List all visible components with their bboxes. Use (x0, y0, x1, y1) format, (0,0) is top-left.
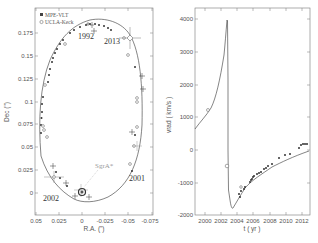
sgra-marker: SgrA* (79, 162, 114, 196)
velocity-model-curve (195, 20, 309, 208)
dec-tick: 0.075 (18, 121, 34, 127)
ra-axis-tick-labels: 0.05 0.025 0 -0.025 -0.05 -0.075 (30, 218, 159, 224)
time-tick: 2004 (230, 218, 244, 224)
velocity-plot: 4000 3000 2000 1000 0 -1000 -2000 vrad (… (165, 8, 310, 233)
vrad-axis-label: vrad ( km/s ) (165, 97, 173, 133)
orbit-plot: 0 0.025 0.05 0.075 0.1 0.125 0.15 0.175 … (3, 8, 159, 233)
time-axis-tick-labels: 2000 2002 2004 2006 2008 2010 2012 (198, 218, 309, 224)
velocity-plot-frame (195, 8, 310, 215)
dec-tick: 0.025 (18, 167, 34, 173)
point-2013 (119, 27, 141, 49)
vrad-tick: 4000 (180, 16, 194, 22)
dec-tick: 0.15 (21, 53, 33, 59)
sgra-pointer (84, 170, 98, 187)
ra-tick: 0 (80, 218, 84, 224)
sgra-dot (81, 191, 84, 194)
dec-axis-tick-labels: 0 0.025 0.05 0.075 0.1 0.125 0.15 0.175 (18, 30, 34, 196)
sgra-label: SgrA* (95, 162, 114, 170)
ra-tick: -0.025 (96, 218, 114, 224)
label-2001: 2001 (129, 174, 145, 183)
ra-tick: -0.075 (141, 218, 159, 224)
vrad-tick: 1000 (180, 114, 194, 120)
ra-axis-label: R.A. (") (83, 225, 104, 233)
label-1992: 1992 (78, 32, 94, 41)
ucla-keck-points (42, 37, 139, 179)
ra-tick: 0.025 (51, 218, 67, 224)
dec-tick: 0 (30, 190, 34, 196)
orbit-plot-frame (35, 8, 153, 215)
legend: MPE-VLT UCLA-Keck (40, 12, 74, 26)
dec-tick: 0.175 (18, 30, 34, 36)
time-tick: 2006 (246, 218, 260, 224)
time-tick: 2008 (263, 218, 277, 224)
legend-open-marker (40, 20, 43, 23)
ra-tick: 0.05 (30, 218, 42, 224)
orbit-curve (40, 19, 142, 202)
time-tick: 2002 (214, 218, 228, 224)
vrad-tick: 0 (190, 147, 194, 153)
vrad-axis-ticks (195, 19, 310, 183)
dec-tick: 0.05 (21, 144, 33, 150)
vrad-tick: -1000 (178, 180, 194, 186)
vrad-tick: 2000 (180, 82, 194, 88)
velocity-open-points (207, 109, 243, 189)
dec-axis-ticks (35, 33, 153, 193)
label-2002: 2002 (43, 194, 59, 203)
ra-axis-ticks (36, 8, 152, 215)
dec-axis-label: Dec (") (3, 102, 11, 122)
vrad-tick: 3000 (180, 49, 194, 55)
vrad-axis-tick-labels: 4000 3000 2000 1000 0 -1000 -2000 (178, 16, 194, 218)
time-axis-label: t ( yr ) (244, 225, 261, 233)
ra-tick: -0.05 (121, 218, 135, 224)
mpe-vlt-points (40, 23, 136, 187)
dec-tick: 0.125 (18, 76, 34, 82)
legend-mpe-vlt: MPE-VLT (45, 12, 69, 18)
figure: 0 0.025 0.05 0.075 0.1 0.125 0.15 0.175 … (0, 0, 318, 243)
time-axis-ticks (205, 8, 302, 215)
legend-filled-marker (40, 13, 43, 16)
time-tick: 2012 (295, 218, 309, 224)
time-tick: 2000 (198, 218, 212, 224)
vrad-tick: -2000 (178, 212, 194, 218)
velocity-measurements (238, 143, 308, 198)
label-2013: 2013 (104, 37, 120, 46)
dec-tick: 0.1 (25, 99, 34, 105)
time-tick: 2010 (279, 218, 293, 224)
legend-ucla-keck: UCLA-Keck (45, 19, 74, 25)
